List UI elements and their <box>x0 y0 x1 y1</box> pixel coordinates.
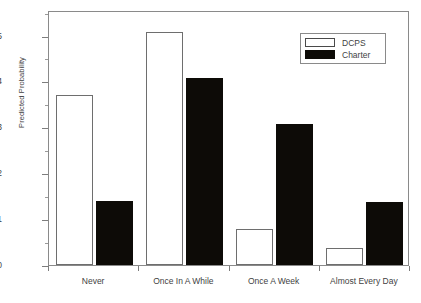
bar-dcps-1 <box>146 32 183 265</box>
x-tick-mark <box>48 266 49 271</box>
legend-item-dcps: DCPS <box>305 37 381 48</box>
bar-charter-3 <box>366 202 403 265</box>
y-tick-label: 0.2 <box>0 168 2 178</box>
bar-charter-1 <box>186 78 223 265</box>
y-axis-title: Predicted Probability <box>17 38 26 148</box>
legend-label-charter: Charter <box>342 50 370 60</box>
bar-dcps-3 <box>326 248 363 265</box>
bar-dcps-2 <box>236 229 273 265</box>
x-category-label: Never <box>48 276 138 286</box>
legend-swatch-dcps <box>305 38 335 47</box>
bar-charter-2 <box>276 124 313 265</box>
x-tick-mark <box>319 266 320 271</box>
legend-swatch-charter <box>305 50 335 59</box>
x-category-label: Almost Every Day <box>319 276 409 286</box>
chart-legend: DCPS Charter <box>300 33 386 64</box>
x-category-label: Once In A While <box>138 276 228 286</box>
legend-item-charter: Charter <box>305 49 381 60</box>
x-tick-mark <box>138 266 139 271</box>
y-tick-label: 0.4 <box>0 76 2 86</box>
bar-charter-0 <box>96 201 133 265</box>
y-tick-label: 0.3 <box>0 122 2 132</box>
y-tick-label: 0.0 <box>0 260 2 270</box>
bar-dcps-0 <box>56 95 93 265</box>
x-tick-mark <box>409 266 410 271</box>
x-category-label: Once A Week <box>229 276 319 286</box>
legend-label-dcps: DCPS <box>342 38 366 48</box>
x-tick-mark <box>229 266 230 271</box>
bar-chart-figure: Predicted Probability 0.00.10.20.30.40.5… <box>0 0 421 303</box>
y-tick-label: 0.1 <box>0 214 2 224</box>
y-tick-label: 0.5 <box>0 31 2 41</box>
